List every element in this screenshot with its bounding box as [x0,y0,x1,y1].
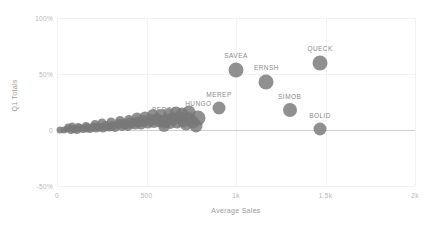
data-point-label: SAVEA [224,52,247,59]
y-axis-tick-labels: 100%50%0-50% [22,18,53,186]
x-gridline [147,18,148,186]
data-point-label: BERGS [152,106,177,113]
x-tick-label: 1k [232,192,239,199]
x-tick-label: 2k [411,192,418,199]
y-gridline [57,18,415,19]
data-point-label: SIMOB [278,93,301,100]
x-gridline [57,18,58,186]
y-tick-label: 100% [35,15,53,22]
y-tick-label: -50% [37,183,53,190]
scatter-chart: Q1 Totals 100%50%0-50% BERGSHUNGOMEREPSA… [0,0,424,229]
x-axis-title: Average Sales [57,207,415,214]
data-point-merep[interactable] [212,101,225,114]
data-point[interactable] [82,122,90,130]
data-point-simob[interactable] [283,103,297,117]
data-point[interactable] [98,119,107,128]
y-axis-title: Q1 Totals [11,66,18,126]
y-gridline [57,186,415,187]
plot-area: BERGSHUNGOMEREPSAVEAERNSHSIMOBQUECKBOLID [57,18,415,186]
data-point[interactable] [91,120,99,128]
x-tick-label: 500 [141,192,153,199]
data-point-hungo[interactable] [191,110,206,125]
data-point-bolid[interactable] [314,122,327,135]
data-point[interactable] [74,123,82,131]
x-tick-label: 0 [55,192,59,199]
data-point-queck[interactable] [313,55,328,70]
data-point-label: QUECK [307,45,332,52]
x-gridline [326,18,327,186]
data-point-label: BOLID [309,112,331,119]
data-point-savea[interactable] [229,62,244,77]
y-tick-label: 0 [49,127,53,134]
x-gridline [415,18,416,186]
x-axis-tick-labels: 05001k1.5k2k [57,192,415,204]
data-point[interactable] [69,122,76,129]
x-tick-label: 1.5k [319,192,333,199]
data-point-bergs[interactable] [158,116,171,129]
x-gridline [236,18,237,186]
y-tick-label: 50% [39,71,53,78]
data-point-ernsh[interactable] [259,74,274,89]
data-point-label: HUNGO [185,100,211,107]
data-point-label: ERNSH [254,64,279,71]
data-point-label: MEREP [206,91,231,98]
